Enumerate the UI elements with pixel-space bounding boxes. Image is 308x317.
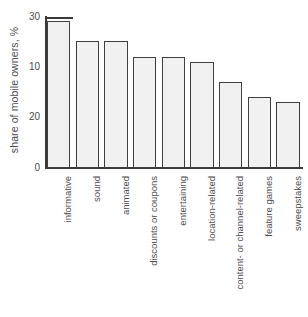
- y-tick-label: 30: [14, 12, 40, 22]
- bar: [104, 41, 127, 168]
- y-tick-label: 10: [14, 62, 40, 72]
- plot-area: [45, 16, 303, 168]
- bar: [248, 97, 271, 168]
- x-category-label: sweepstakes: [293, 176, 303, 231]
- bar-chart: share of mobile owners, % 3010200 inform…: [0, 0, 308, 317]
- y-tick-label: 20: [14, 112, 40, 122]
- x-category-label: feature games: [264, 176, 274, 237]
- x-category-label: discounts or coupons: [149, 176, 159, 266]
- bar: [190, 62, 213, 168]
- bar: [76, 41, 99, 168]
- bar: [133, 57, 156, 168]
- bar: [276, 102, 299, 168]
- x-category-label: entertaining: [178, 176, 188, 226]
- x-category-label: content- or channel-related: [235, 176, 245, 290]
- x-category-label: informative: [63, 176, 73, 222]
- x-category-label: animated: [121, 176, 131, 215]
- y-tick-label: 0: [14, 163, 40, 173]
- bar: [219, 82, 242, 168]
- bar: [162, 57, 185, 168]
- x-category-label: location-related: [207, 176, 217, 241]
- bar: [47, 21, 70, 168]
- x-category-label: sound: [92, 176, 102, 202]
- y-axis-title: share of mobile owners, %: [8, 10, 20, 170]
